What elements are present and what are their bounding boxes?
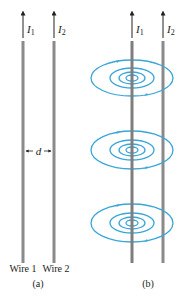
caption-a: (a): [32, 278, 43, 290]
panel-a: I1 I2 d Wire 1 Wire 2 (a): [9, 13, 69, 290]
panel-b: I1 I2: [91, 13, 175, 290]
current-label-2: I2: [57, 23, 66, 37]
current-label-1: I1: [135, 23, 144, 37]
current-label-1: I1: [26, 23, 35, 37]
wire-1-label: Wire 1: [9, 263, 36, 274]
wire-2: [53, 41, 56, 263]
parallel-wires-diagram: I1 I2 d Wire 1 Wire 2 (a) I1 I2: [0, 0, 186, 297]
caption-b: (b): [142, 278, 154, 290]
wire-1: [22, 41, 25, 263]
current-label-2: I2: [166, 23, 175, 37]
wire-2-label: Wire 2: [42, 263, 69, 274]
separation-label: d: [36, 145, 42, 157]
wire-1: [131, 41, 134, 263]
wire-2: [162, 41, 165, 263]
